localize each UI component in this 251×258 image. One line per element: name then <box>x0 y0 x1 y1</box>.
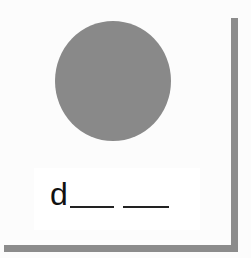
card-shadow-bottom <box>4 245 238 252</box>
gray-circle-shape <box>55 21 171 141</box>
worksheet-card: d <box>0 0 251 258</box>
letter-blank-1[interactable] <box>70 206 114 208</box>
first-letter: d <box>50 178 68 210</box>
letter-blank-2[interactable] <box>123 206 169 208</box>
card-shadow-right <box>231 18 238 252</box>
